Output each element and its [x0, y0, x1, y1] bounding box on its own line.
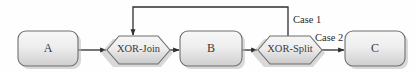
node-task-b[interactable]: B: [180, 31, 242, 66]
task-b-label: B: [207, 41, 215, 55]
gateway-xor-join-label: XOR-Join: [117, 43, 161, 54]
edge-label-case-2: Case 2: [315, 32, 343, 43]
task-c-label: C: [371, 41, 379, 55]
diagram-canvas: A XOR-Join B XOR-Split C Case 1 Case 2: [0, 0, 416, 72]
node-task-c[interactable]: C: [345, 31, 405, 66]
node-gateway-xor-join[interactable]: XOR-Join: [107, 36, 170, 64]
workflow-diagram: A XOR-Join B XOR-Split C Case 1 Case 2: [0, 0, 416, 72]
node-task-a[interactable]: A: [18, 31, 78, 66]
task-a-label: A: [44, 41, 53, 55]
node-gateway-xor-split[interactable]: XOR-Split: [258, 36, 322, 64]
edge-label-case-1: Case 1: [293, 14, 321, 25]
gateway-xor-split-label: XOR-Split: [267, 43, 313, 54]
